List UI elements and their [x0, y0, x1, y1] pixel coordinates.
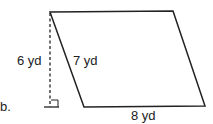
problem-label: b.: [0, 100, 11, 113]
height-label: 6 yd: [17, 54, 42, 67]
right-angle-marker: [51, 100, 58, 107]
base-label: 8 yd: [131, 109, 156, 122]
side-label: 7 yd: [73, 54, 98, 67]
